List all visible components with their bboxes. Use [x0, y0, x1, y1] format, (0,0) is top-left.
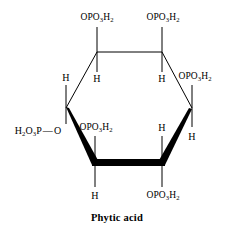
label-inner-left-lower-substituent: OPO3H2	[79, 123, 112, 133]
label-top-left-substituent: OPO3H2	[80, 13, 113, 23]
bold-bond-bottomright-to-right	[158, 108, 192, 165]
label-upper-left-outer-h: H	[62, 73, 69, 83]
molecule-structure-svg	[0, 0, 234, 232]
label-lower-right-inner-h: H	[158, 123, 165, 133]
label-right-substituent: OPO3H2	[178, 72, 211, 82]
figure-caption: Phytic acid	[0, 212, 234, 223]
bold-bond-bottomleft-to-bottomright	[92, 159, 165, 166]
label-lower-right-outer-h: H	[188, 132, 195, 142]
label-upper-left-inner-h: H	[93, 74, 100, 84]
label-bottom-right-substituent: OPO3H2	[146, 191, 179, 201]
label-upper-right-inner-h: H	[158, 74, 165, 84]
label-bottom-left-h: H	[91, 191, 98, 201]
label-left-phosphate-chain: H2O3P—O	[15, 126, 62, 136]
bold-bond-left-to-bottomleft	[66, 107, 99, 165]
ring-front-bold-bonds	[66, 107, 192, 166]
phytic-acid-figure: OPO3H2 OPO3H2 OPO3H2 H H H H2O3P—O OPO3H…	[0, 0, 234, 232]
label-top-right-substituent: OPO3H2	[146, 13, 179, 23]
ring-back-bonds	[66, 52, 192, 108]
